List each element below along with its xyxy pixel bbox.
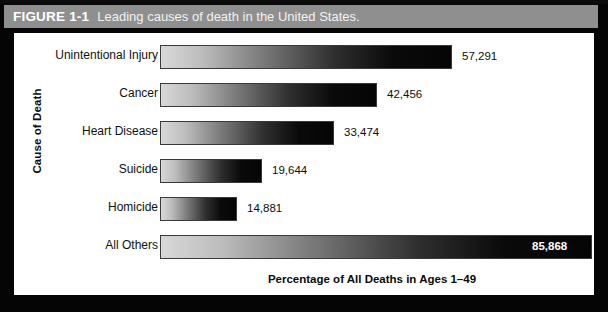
bar-row: Cancer 42,456 (14, 83, 594, 121)
bar-row: Heart Disease 33,474 (14, 121, 594, 159)
bar-value-label: 19,644 (272, 164, 307, 176)
category-label: Heart Disease (0, 124, 158, 138)
bar-row: All Others 85,868 (14, 235, 594, 273)
bar-cancer (160, 83, 377, 107)
figure-container: FIGURE 1-1 Leading causes of death in th… (0, 0, 608, 312)
bar-homicide (160, 197, 237, 221)
figure-caption-bar: FIGURE 1-1 Leading causes of death in th… (4, 5, 598, 28)
bar-row: Homicide 14,881 (14, 197, 594, 235)
bar-row: Suicide 19,644 (14, 159, 594, 197)
bar-value-label: 57,291 (462, 50, 497, 62)
frame-top-strip (0, 0, 608, 4)
bar-track: 85,868 (160, 235, 594, 259)
category-label: Suicide (0, 162, 158, 176)
bar-track: 57,291 (160, 45, 594, 69)
figure-number: FIGURE 1-1 (13, 9, 89, 24)
figure-caption-text: Leading causes of death in the United St… (97, 9, 359, 24)
bar-track: 19,644 (160, 159, 594, 183)
bar-value-label: 85,868 (532, 240, 567, 252)
bar-row: Unintentional Injury 57,291 (14, 45, 594, 83)
bar-unintentional-injury (160, 45, 452, 69)
category-label: Unintentional Injury (0, 48, 158, 62)
bar-value-label: 14,881 (247, 202, 282, 214)
category-label: Homicide (0, 200, 158, 214)
bar-suicide (160, 159, 262, 183)
x-axis-title: Percentage of All Deaths in Ages 1–49 (160, 273, 584, 285)
bar-heart-disease (160, 121, 334, 145)
chart-panel: Cause of Death Unintentional Injury 57,2… (14, 33, 594, 295)
bar-value-label: 33,474 (344, 126, 379, 138)
category-label: All Others (0, 238, 158, 252)
bar-all-others (160, 235, 592, 259)
bar-value-label: 42,456 (387, 88, 422, 100)
bar-rows: Unintentional Injury 57,291 Cancer 42,45… (14, 45, 594, 273)
bar-track: 14,881 (160, 197, 594, 221)
bar-track: 42,456 (160, 83, 594, 107)
bar-track: 33,474 (160, 121, 594, 145)
category-label: Cancer (0, 86, 158, 100)
